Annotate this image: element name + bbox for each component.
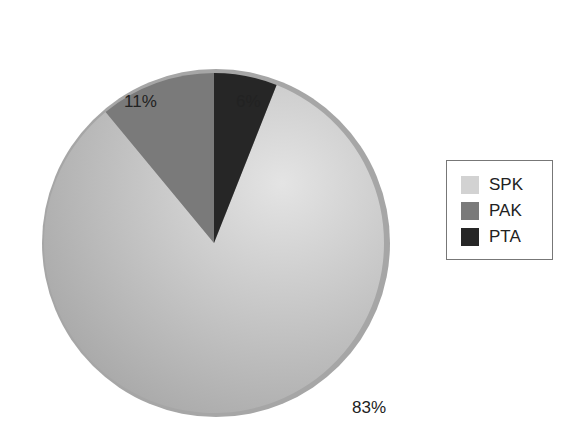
legend-item-pta[interactable]: PTA bbox=[461, 226, 521, 248]
legend-label-pak: PAK bbox=[489, 201, 522, 221]
legend-item-spk[interactable]: SPK bbox=[461, 174, 523, 196]
legend-label-pta: PTA bbox=[489, 227, 521, 247]
swatch-pta bbox=[461, 228, 479, 246]
swatch-spk bbox=[461, 176, 479, 194]
legend: SPK PAK PTA bbox=[446, 160, 553, 260]
swatch-pak bbox=[461, 202, 479, 220]
label-pak: 11% bbox=[124, 92, 157, 112]
legend-label-spk: SPK bbox=[489, 175, 523, 195]
label-pta: 6% bbox=[236, 92, 261, 112]
label-spk: 83% bbox=[352, 398, 386, 418]
legend-item-pak[interactable]: PAK bbox=[461, 200, 522, 222]
